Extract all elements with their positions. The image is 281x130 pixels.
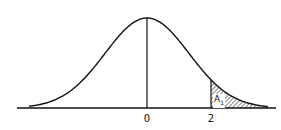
normal-curve-plot	[0, 0, 281, 130]
tick-label-0: 0	[144, 113, 150, 124]
normal-distribution-figure: A1 0 2	[0, 0, 281, 130]
tick-label-2: 2	[208, 113, 214, 124]
bell-curve	[29, 18, 268, 107]
area-label-subscript: 1	[220, 99, 224, 106]
area-label-a1: A1	[213, 94, 225, 108]
